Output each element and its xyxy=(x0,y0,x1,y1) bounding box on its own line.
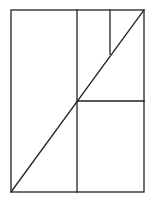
geometric-diagram xyxy=(0,0,153,204)
